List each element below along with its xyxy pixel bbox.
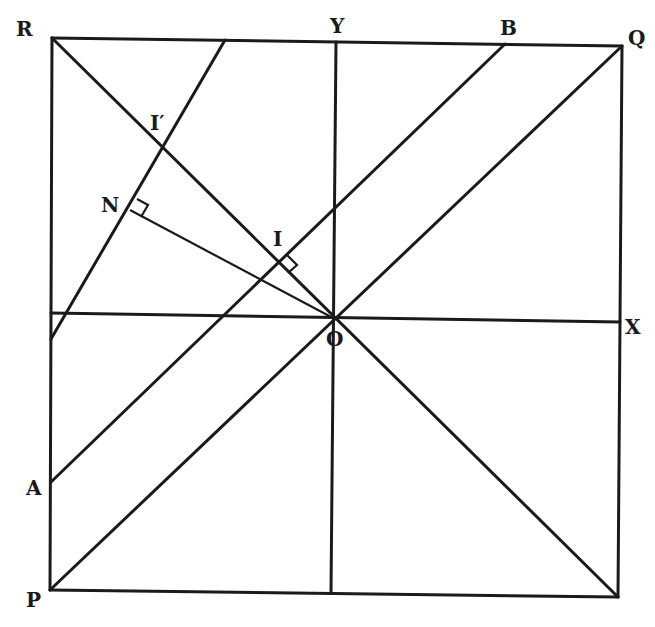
line-through-i-prime <box>51 40 225 339</box>
label-x: X <box>625 315 641 339</box>
label-p: P <box>26 588 41 612</box>
label-b: B <box>500 16 517 40</box>
x-axis-line <box>51 313 620 322</box>
label-a: A <box>25 476 42 500</box>
label-o: O <box>326 327 343 351</box>
label-i-prime: I′ <box>150 111 165 135</box>
square-bottom-edge <box>50 590 618 597</box>
label-i: I <box>273 227 282 251</box>
label-q: Q <box>628 26 645 50</box>
label-r: R <box>16 17 33 41</box>
label-n: N <box>101 193 119 217</box>
label-y: Y <box>329 14 345 38</box>
perpendicular-o-n <box>130 210 333 318</box>
geometry-diagram: R Y B Q I′ N I X O A P <box>0 0 655 627</box>
